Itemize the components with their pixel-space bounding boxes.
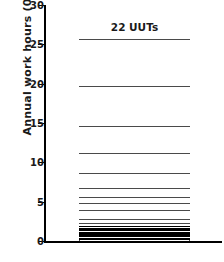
bar-segment[interactable] <box>79 39 190 86</box>
bar-segment[interactable] <box>79 126 190 154</box>
y-tick-label: 30 <box>10 0 44 11</box>
y-tick-label: 15 <box>10 118 44 129</box>
chart-title: 22 UUTs <box>79 21 190 33</box>
bar-segment[interactable] <box>79 188 190 197</box>
y-tick-label: 10 <box>10 157 44 168</box>
bar-segment[interactable] <box>79 86 190 125</box>
stacked-bar[interactable] <box>79 39 190 241</box>
x-axis-line <box>44 241 222 243</box>
y-tick-label: 20 <box>10 78 44 89</box>
y-tick-label: 0 <box>10 236 44 247</box>
y-tick-label: 25 <box>10 39 44 50</box>
y-tick-label: 5 <box>10 196 44 207</box>
bar-segment[interactable] <box>79 173 190 189</box>
bar-segment[interactable] <box>79 239 190 240</box>
chart-root: Annual work hours (000) 051015202530 22 … <box>0 0 224 262</box>
bar-segment[interactable] <box>79 153 190 173</box>
bar-segment[interactable] <box>79 203 190 210</box>
bar-segment[interactable] <box>79 210 190 219</box>
